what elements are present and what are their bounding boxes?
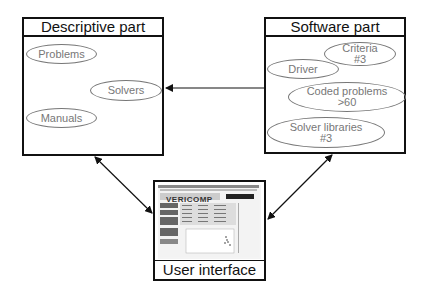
software-ui-double-arrow [268,155,332,219]
connection-arrows [0,0,427,296]
descriptive-ui-double-arrow [95,157,152,213]
